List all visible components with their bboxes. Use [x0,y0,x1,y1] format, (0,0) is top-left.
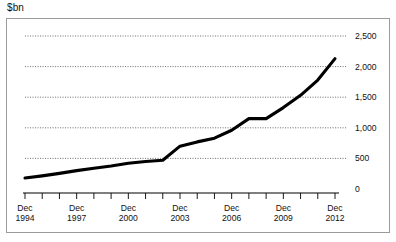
x-tick-marks-group [25,193,335,199]
y-tick-label: 1,000 [355,123,377,133]
x-tick-label: Dec2000 [119,203,138,223]
x-tick-label: Dec1994 [15,203,34,223]
x-tick-label: Dec2012 [325,203,344,223]
x-tick-label: Dec2006 [222,203,241,223]
y-tick-label: 1,500 [355,92,377,102]
y-tick-label: 2,000 [355,62,377,72]
x-axis-tick-labels-group: Dec1994Dec1997Dec2000Dec2003Dec2006Dec20… [15,203,344,223]
x-tick-label: Dec1997 [67,203,86,223]
y-tick-label: 500 [355,153,370,163]
data-series-line [25,59,335,178]
y-axis-unit-label: $bn [7,2,24,14]
chart-panel: 05001,0001,5002,0002,500 Dec1994Dec1997D… [6,18,390,233]
x-tick-label: Dec2003 [170,203,189,223]
y-tick-label: 2,500 [355,31,377,41]
y-axis-tick-labels-group: 05001,0001,5002,0002,500 [355,31,377,194]
chart-figure: $bn 05001,0001,5002,0002,500 Dec1994Dec1… [0,0,396,242]
y-tick-label: 0 [355,184,360,194]
x-tick-label: Dec2009 [274,203,293,223]
plot-area: 05001,0001,5002,0002,500 Dec1994Dec1997D… [7,19,389,232]
